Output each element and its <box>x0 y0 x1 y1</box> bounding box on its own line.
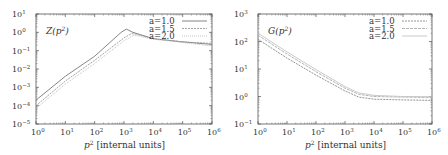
x-tick-label: 103 <box>119 127 133 137</box>
legend-label: a=2.0 <box>369 31 395 41</box>
g-chart-svg: 10010110210310410510610−1100101102103a=1… <box>224 0 448 155</box>
series-line-2 <box>36 35 212 108</box>
x-tick-label: 102 <box>311 127 325 137</box>
y-tick-label: 100 <box>12 27 26 37</box>
series-line-1 <box>36 34 212 106</box>
y-tick-label: 101 <box>12 9 26 19</box>
x-tick-label: 105 <box>178 127 192 137</box>
x-tick-label: 104 <box>148 127 162 137</box>
x-tick-label: 106 <box>207 127 221 137</box>
series-line-0 <box>36 29 212 100</box>
panel-title: G(p2) <box>268 25 292 36</box>
z-chart-svg: 10010110210310410510610−510−410−310−210−… <box>0 0 224 155</box>
y-tick-label: 102 <box>234 37 248 47</box>
x-tick-label: 102 <box>90 127 104 137</box>
x-axis-label: p2 [internal units] <box>84 139 165 150</box>
series-line-1 <box>258 35 432 97</box>
x-tick-label: 105 <box>398 127 412 137</box>
z-propagator-chart: 10010110210310410510610−510−410−310−210−… <box>0 0 224 155</box>
legend-label: a=2.0 <box>149 31 175 41</box>
series-line-0 <box>258 39 432 100</box>
x-tick-label: 100 <box>253 127 267 137</box>
y-tick-label: 10−4 <box>12 101 31 111</box>
x-tick-label: 101 <box>282 127 296 137</box>
y-tick-label: 10−1 <box>234 119 252 129</box>
x-tick-label: 106 <box>427 127 441 137</box>
x-tick-label: 103 <box>340 127 354 137</box>
panel-title: Z(p2) <box>45 25 69 36</box>
x-axis-label: p2 [internal units] <box>305 139 386 150</box>
y-tick-label: 10−1 <box>12 46 30 56</box>
y-tick-label: 100 <box>234 92 248 102</box>
series-line-2 <box>258 33 432 96</box>
y-tick-label: 10−3 <box>12 82 31 92</box>
x-tick-label: 100 <box>31 127 45 137</box>
y-tick-label: 103 <box>234 9 248 19</box>
x-tick-label: 101 <box>60 127 74 137</box>
x-tick-label: 104 <box>369 127 383 137</box>
y-tick-label: 10−5 <box>12 119 31 129</box>
y-tick-label: 101 <box>234 64 248 74</box>
y-tick-label: 10−2 <box>12 64 30 74</box>
g-propagator-chart: 10010110210310410510610−1100101102103a=1… <box>224 0 448 155</box>
